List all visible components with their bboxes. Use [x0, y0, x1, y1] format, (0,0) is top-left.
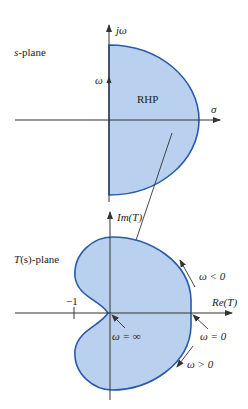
omega-label: ω — [95, 74, 103, 86]
sigma-axis-label: σ — [211, 103, 217, 115]
jw-axis-label: jω — [114, 24, 127, 36]
rhp-label: RHP — [137, 93, 158, 105]
omega-inf-label: ω = ∞ — [112, 330, 141, 342]
s-plane-title: s-plane — [14, 46, 46, 58]
minus-one-label: −1 — [66, 295, 78, 307]
s-plane: s-plane jω σ ω RHP — [14, 24, 220, 202]
re-t-axis-label: Re(T) — [211, 296, 237, 309]
omega-zero-pointer — [193, 315, 208, 329]
im-t-axis-label: Im(T) — [116, 211, 142, 224]
nyquist-mapping-diagram: s-plane jω σ ω RHP T(s)-plane Im(T) Re(T… — [0, 0, 248, 409]
omega-pos-label: ω > 0 — [187, 358, 214, 370]
omega-zero-label: ω = 0 — [200, 330, 227, 342]
omega-neg-label: ω < 0 — [199, 270, 226, 282]
t-plane-title: T(s)-plane — [14, 253, 59, 266]
t-plane: T(s)-plane Im(T) Re(T) −1 ω = ∞ ω = 0 ω … — [14, 211, 237, 400]
